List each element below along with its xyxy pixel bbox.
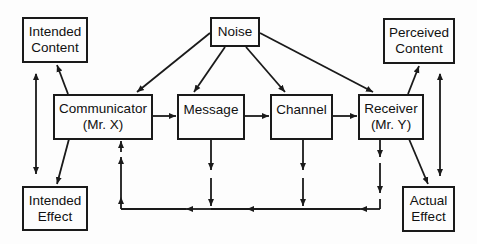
arrow-receiver-to-actual-effect	[409, 139, 428, 184]
node-label: Channel	[276, 102, 326, 118]
node-communicator: Communicator (Mr. X)	[53, 94, 153, 140]
node-intended-content: Intended Content	[22, 17, 88, 63]
node-label: Effect	[411, 209, 445, 225]
node-label: Intended	[29, 24, 82, 40]
node-label: Content	[31, 40, 78, 56]
node-label: (Mr. Y)	[371, 117, 411, 133]
node-label: Communicator	[59, 101, 147, 117]
node-label: Effect	[38, 209, 72, 225]
node-intended-effect: Intended Effect	[22, 186, 88, 231]
node-message: Message	[177, 94, 245, 140]
node-label: (Mr. X)	[83, 117, 124, 133]
arrow-communicator-to-intended-content	[57, 65, 68, 94]
node-label: Message	[184, 102, 239, 118]
node-label: Content	[395, 41, 442, 57]
node-label: Perceived	[389, 25, 449, 41]
arrow-noise-to-channel	[246, 47, 285, 92]
node-noise: Noise	[210, 17, 260, 47]
communication-model-diagram: Intended Content Noise Perceived Content…	[0, 0, 477, 244]
node-channel: Channel	[270, 94, 333, 140]
node-label: Noise	[218, 24, 253, 40]
node-perceived-content: Perceived Content	[383, 18, 455, 64]
arrow-noise-to-message	[194, 47, 225, 92]
node-actual-effect: Actual Effect	[402, 186, 455, 232]
arrow-receiver-to-perceived-content	[408, 66, 419, 94]
arrow-communicator-to-intended-effect	[57, 139, 69, 184]
node-label: Actual	[410, 193, 448, 209]
node-receiver: Receiver (Mr. Y)	[358, 94, 424, 140]
node-label: Intended	[29, 193, 82, 209]
node-label: Receiver	[364, 101, 417, 117]
